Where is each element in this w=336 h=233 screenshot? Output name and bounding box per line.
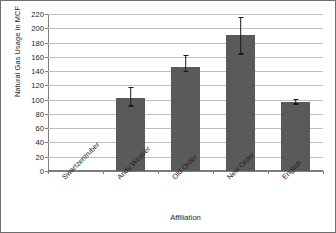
error-bar-cap — [293, 103, 298, 104]
error-bar — [185, 55, 187, 71]
x-axis-tick-mark — [268, 171, 269, 174]
error-bar — [240, 17, 242, 53]
y-axis-tick-label: 160 — [31, 52, 44, 61]
x-axis-tick-mark — [323, 171, 324, 174]
error-bar-cap — [183, 55, 188, 56]
x-axis-tick-mark — [48, 171, 49, 174]
plot-area: 020406080100120140160180200220 Swartzent… — [48, 14, 323, 171]
y-axis-tick-label: 140 — [31, 67, 44, 76]
y-axis-tick-label: 80 — [36, 109, 44, 118]
y-axis-tick-label: 200 — [31, 24, 44, 33]
y-axis-tick-mark — [45, 57, 48, 58]
y-axis-tick-label: 100 — [31, 95, 44, 104]
error-bar-cap — [238, 53, 243, 54]
y-axis-tick-label: 180 — [31, 38, 44, 47]
error-bar — [130, 87, 132, 106]
bar-chart: Natural Gas Usage in MCF 020406080100120… — [0, 0, 336, 233]
y-axis-tick-label: 20 — [36, 152, 44, 161]
x-axis-tick-mark — [213, 171, 214, 174]
y-axis-tick-label: 220 — [31, 10, 44, 19]
y-axis-tick-label: 40 — [36, 138, 44, 147]
y-axis-tick-label: 0 — [40, 167, 44, 176]
x-axis-title: Affiliation — [48, 213, 323, 222]
error-bar-cap — [238, 17, 243, 18]
y-axis-tick-mark — [45, 142, 48, 143]
gridline — [48, 14, 323, 15]
y-axis-tick-mark — [45, 43, 48, 44]
y-axis-tick-label: 120 — [31, 81, 44, 90]
x-axis-tick-mark — [158, 171, 159, 174]
y-axis-tick-mark — [45, 157, 48, 158]
y-axis-tick-mark — [45, 14, 48, 15]
y-axis-tick-mark — [45, 28, 48, 29]
y-axis-tick-mark — [45, 85, 48, 86]
gridline — [48, 43, 323, 44]
error-bar-cap — [183, 71, 188, 72]
y-axis-title: Natural Gas Usage in MCF — [13, 0, 22, 122]
error-bar-cap — [293, 99, 298, 100]
y-axis-tick-label: 60 — [36, 124, 44, 133]
y-axis-tick-mark — [45, 114, 48, 115]
error-bar-cap — [128, 105, 133, 106]
x-axis-tick-mark — [103, 171, 104, 174]
gridline — [48, 28, 323, 29]
y-axis-tick-mark — [45, 100, 48, 101]
y-axis-tick-mark — [45, 71, 48, 72]
error-bar-cap — [128, 87, 133, 88]
y-axis-tick-mark — [45, 128, 48, 129]
